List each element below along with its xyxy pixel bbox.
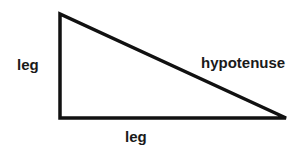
right-triangle-diagram: leg leg hypotenuse (0, 0, 303, 151)
horizontal-leg-label: leg (125, 128, 147, 145)
hypotenuse-label: hypotenuse (201, 54, 285, 71)
vertical-leg-label: leg (17, 56, 39, 73)
